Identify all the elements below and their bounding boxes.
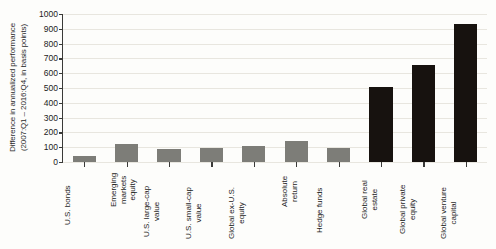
y-axis-tick-label: 300 [44, 113, 58, 122]
y-axis-tick-label: 400 [44, 98, 58, 107]
bar [285, 141, 308, 162]
x-axis-label-line: Absolute [280, 176, 290, 207]
plot-area [62, 14, 487, 163]
x-axis-label-line: Global real [360, 180, 370, 219]
y-axis-tick-label: 100 [44, 143, 58, 152]
x-axis-category-label: Global ex-U.S.equity [232, 170, 274, 248]
x-axis-category-label: Absolutereturn [274, 170, 316, 248]
x-axis-tick-mark [466, 162, 467, 167]
x-axis-category-label: Global realestate [359, 170, 401, 248]
x-axis-label-line: U.S. bonds [63, 185, 73, 225]
x-axis-tick-mark [169, 162, 170, 167]
x-axis-tick-mark [254, 162, 255, 167]
x-axis-label-line: Emerging [109, 172, 119, 206]
x-axis-label-line: equity [236, 186, 246, 238]
bar-chart-figure: Difference in annualized performance (20… [0, 0, 496, 249]
bar-series [63, 14, 487, 162]
x-axis-category-label: Global venturecapital [444, 170, 486, 248]
y-axis-tick-labels: 10009008007006005004003002001000 [33, 14, 58, 162]
x-axis-tick-mark [84, 162, 85, 167]
bar [200, 148, 223, 162]
x-axis-label-line: Hedge funds [315, 187, 325, 232]
bar [369, 87, 392, 162]
x-axis-label-line: return [289, 176, 299, 207]
y-axis-tick-label: 900 [44, 24, 58, 33]
x-axis-category-label: U.S. large-capvalue [147, 170, 189, 248]
y-axis-title-line2: (2007:Q1 – 2016:Q4, in basis points) [19, 23, 30, 152]
y-axis-tick-label: 500 [44, 84, 58, 93]
x-axis-label-line: U.S. small-cap [184, 186, 194, 238]
x-axis-tick-mark [211, 162, 212, 167]
y-axis-tick-label: 200 [44, 128, 58, 137]
bar [115, 144, 138, 162]
bar [454, 24, 477, 162]
x-axis-tick-mark [296, 162, 297, 167]
x-axis-label-line: Global venture [439, 186, 449, 238]
x-axis-label-line: value [194, 186, 204, 238]
x-axis-label-line: capital [448, 186, 458, 238]
x-axis-tick-mark [127, 162, 128, 167]
y-axis-tick-label: 800 [44, 39, 58, 48]
y-axis-tick-label: 0 [53, 158, 58, 167]
x-axis-label-line: estate [370, 180, 380, 219]
x-axis-tick-mark [339, 162, 340, 167]
y-axis-title-line1: Difference in annualized performance [9, 23, 18, 152]
bar [242, 146, 265, 162]
x-axis-label-line: Global ex-U.S. [227, 186, 237, 238]
x-axis-tick-mark [381, 162, 382, 167]
x-axis-category-labels: U.S. bondsEmergingmarketsequityU.S. larg… [62, 170, 486, 249]
x-axis-category-label: U.S. small-capvalue [189, 170, 231, 248]
x-axis-category-label: Emergingmarketsequity [104, 170, 146, 248]
x-axis-label-line: Global private [398, 185, 408, 234]
x-axis-label-line: equity [407, 185, 417, 234]
y-axis-tick-mark [59, 162, 63, 163]
x-axis-tick-mark [423, 162, 424, 167]
y-axis-tick-label: 600 [44, 69, 58, 78]
y-axis-tick-label: 1000 [39, 10, 58, 19]
x-axis-label-line: value [152, 186, 162, 237]
x-axis-category-label: Hedge funds [316, 170, 358, 248]
x-axis-label-line: equity [128, 172, 138, 206]
bar [157, 149, 180, 162]
bar [412, 65, 435, 162]
x-axis-label-line: U.S. large-cap [142, 186, 152, 237]
bar [327, 148, 350, 162]
x-axis-label-line: markets [118, 172, 128, 206]
y-axis-tick-label: 700 [44, 54, 58, 63]
x-axis-category-label: U.S. bonds [62, 170, 104, 248]
x-axis-category-label: Global privateequity [401, 170, 443, 248]
